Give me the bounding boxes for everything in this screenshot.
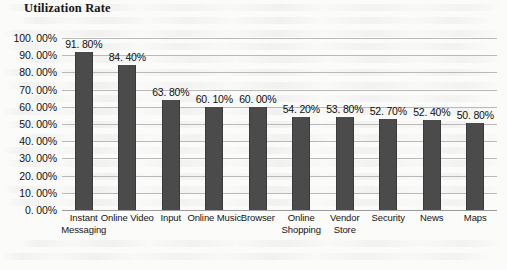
chart-title: Utilization Rate bbox=[24, 1, 111, 16]
gridline bbox=[62, 38, 497, 39]
bar-value-label: 84. 40% bbox=[109, 51, 146, 63]
bar-value-label: 52. 40% bbox=[413, 106, 450, 118]
y-axis-tick-label: 100. 00% bbox=[13, 32, 57, 44]
bar[interactable] bbox=[292, 117, 310, 210]
bar[interactable] bbox=[75, 52, 93, 210]
utilization-rate-bar-chart: Utilization Rate 100. 00%90. 00%80. 00%7… bbox=[0, 0, 507, 270]
y-axis-tick-label: 70. 00% bbox=[19, 84, 57, 96]
bar-value-label: 50. 80% bbox=[457, 109, 494, 121]
bar-value-label: 54. 20% bbox=[283, 103, 320, 115]
y-axis-tick-label: 20. 00% bbox=[19, 170, 57, 182]
bar-value-label: 52. 70% bbox=[370, 105, 407, 117]
y-axis-tick-label: 10. 00% bbox=[19, 187, 57, 199]
bar[interactable] bbox=[379, 119, 397, 210]
bar[interactable] bbox=[336, 117, 354, 210]
bar[interactable] bbox=[466, 123, 484, 210]
y-axis-tick-label: 90. 00% bbox=[19, 49, 57, 61]
bar-value-label: 60. 10% bbox=[196, 93, 233, 105]
y-axis-tick-label: 60. 00% bbox=[19, 101, 57, 113]
y-axis-tick-label: 40. 00% bbox=[19, 135, 57, 147]
y-axis-tick-label: 50. 00% bbox=[19, 118, 57, 130]
bar-value-label: 60. 00% bbox=[239, 93, 276, 105]
y-axis-tick-label: 30. 00% bbox=[19, 152, 57, 164]
bar-value-label: 91. 80% bbox=[65, 38, 102, 50]
bar-value-label: 63. 80% bbox=[152, 86, 189, 98]
bar[interactable] bbox=[118, 65, 136, 210]
bar-value-label: 53. 80% bbox=[326, 103, 363, 115]
x-axis-category-label: Maps bbox=[448, 212, 502, 224]
bar[interactable] bbox=[162, 100, 180, 210]
y-axis-tick-label: 0. 00% bbox=[25, 204, 57, 216]
y-axis-tick-label: 80. 00% bbox=[19, 66, 57, 78]
x-axis-line bbox=[62, 210, 497, 211]
plot-area: 100. 00%90. 00%80. 00%70. 00%60. 00%50. … bbox=[62, 38, 497, 210]
bar[interactable] bbox=[205, 107, 223, 210]
bar[interactable] bbox=[249, 107, 267, 210]
bar[interactable] bbox=[423, 120, 441, 210]
